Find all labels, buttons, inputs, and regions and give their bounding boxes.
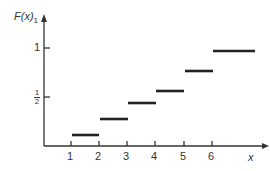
half-denominator: 2 — [33, 98, 41, 106]
half-numerator: 1 — [33, 89, 41, 97]
step-segments — [72, 51, 255, 135]
y-tick-label-1: 1 — [34, 41, 40, 53]
x-tick-label-4: 4 — [151, 150, 157, 162]
y-axis-label-text: F(x) — [14, 10, 34, 22]
x-tick-label-5: 5 — [180, 150, 186, 162]
x-tick-label-3: 3 — [123, 150, 129, 162]
x-axis-label: x — [248, 151, 254, 163]
step-chart — [0, 0, 270, 171]
x-axis-arrow — [262, 143, 269, 149]
y-axis-arrow — [41, 14, 47, 22]
x-tick-label-1: 1 — [67, 150, 73, 162]
x-tick-label-2: 2 — [95, 150, 101, 162]
y-axis-label: F(x)1 — [14, 10, 38, 25]
y-tick-label-half: 1 2 — [33, 89, 41, 106]
x-tick-label-6: 6 — [208, 150, 214, 162]
y-axis-label-sub: 1 — [34, 16, 38, 25]
